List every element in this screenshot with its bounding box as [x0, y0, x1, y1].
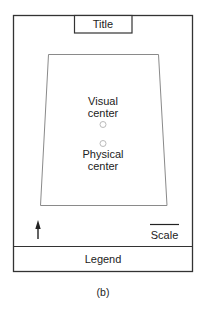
north-arrow-icon — [35, 220, 40, 239]
visual-center-label-line1: Visual — [88, 95, 118, 107]
visual-center-marker — [100, 122, 106, 128]
physical-center-label-line1: Physical — [83, 148, 124, 160]
map-layout-diagram: Title Visual center Physical center Scal… — [0, 0, 206, 314]
physical-center-label-line2: center — [88, 160, 119, 172]
physical-center-marker — [100, 141, 106, 147]
legend-label: Legend — [85, 253, 122, 265]
title-text: Title — [93, 18, 113, 30]
visual-center-label-line2: center — [88, 107, 119, 119]
figure-caption: (b) — [97, 286, 110, 298]
scale-label: Scale — [151, 229, 179, 241]
map-area-trapezoid — [41, 55, 168, 206]
